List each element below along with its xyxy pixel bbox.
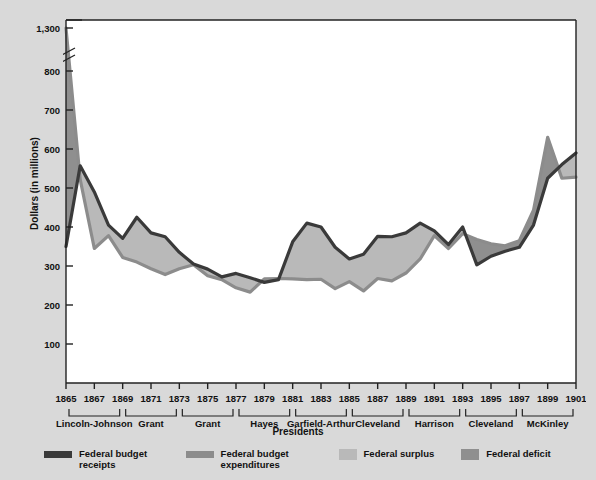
legend-swatch-expenditures xyxy=(186,451,214,458)
x-tick-label: 1869 xyxy=(112,393,133,404)
figure: 1002003004005006007008001,30018651867186… xyxy=(0,0,596,480)
x-tick-label: 1895 xyxy=(480,393,502,404)
y-tick-label: 500 xyxy=(44,183,60,194)
x-tick-label: 1887 xyxy=(367,393,388,404)
y-tick-label: 1,300 xyxy=(36,23,60,34)
budget-chart-svg: 1002003004005006007008001,30018651867186… xyxy=(10,8,586,472)
president-bracket xyxy=(126,409,177,416)
y-tick-label: 300 xyxy=(44,261,60,272)
y-tick-label: 100 xyxy=(44,339,60,350)
x-tick-label: 1877 xyxy=(225,393,246,404)
y-tick-label: 200 xyxy=(44,300,60,311)
x-tick-label: 1881 xyxy=(282,393,304,404)
axis-break-gap xyxy=(59,49,63,67)
president-bracket xyxy=(182,409,233,416)
legend-label-surplus: Federal surplus xyxy=(364,448,435,459)
y-tick-label: 600 xyxy=(44,144,60,155)
legend-item-deficit: Federal deficit xyxy=(461,448,584,460)
x-tick-label: 1897 xyxy=(509,393,530,404)
legend-label-receipts: Federal budget receipts xyxy=(79,448,147,470)
president-bracket xyxy=(522,409,573,416)
chart-legend: Federal budget receipts Federal budget e… xyxy=(44,448,584,470)
legend-swatch-surplus xyxy=(339,449,357,460)
y-tick-label: 700 xyxy=(44,105,60,116)
president-bracket xyxy=(239,409,290,416)
legend-item-expenditures: Federal budget expenditures xyxy=(186,448,339,470)
legend-swatch-deficit xyxy=(461,449,479,460)
y-axis-title: Dollars (in millions) xyxy=(29,114,40,254)
president-bracket xyxy=(296,409,347,416)
president-bracket xyxy=(69,409,120,416)
y-tick-label: 800 xyxy=(44,66,60,77)
x-tick-label: 1873 xyxy=(169,393,190,404)
president-bracket xyxy=(466,409,517,416)
x-tick-label: 1893 xyxy=(452,393,473,404)
plot-background xyxy=(66,20,576,383)
x-tick-label: 1889 xyxy=(395,393,416,404)
y-tick-label: 400 xyxy=(44,222,60,233)
x-tick-label: 1901 xyxy=(565,393,586,404)
x-tick-label: 1885 xyxy=(339,393,361,404)
president-bracket xyxy=(409,409,460,416)
legend-item-surplus: Federal surplus xyxy=(339,448,462,460)
x-tick-label: 1899 xyxy=(537,393,558,404)
legend-item-receipts: Federal budget receipts xyxy=(44,448,186,470)
x-tick-label: 1867 xyxy=(84,393,105,404)
chart-container: 1002003004005006007008001,30018651867186… xyxy=(10,8,586,472)
legend-label-expenditures: Federal budget expenditures xyxy=(221,448,289,470)
x-tick-label: 1865 xyxy=(55,393,77,404)
x-tick-label: 1883 xyxy=(310,393,331,404)
x-tick-label: 1891 xyxy=(424,393,446,404)
x-tick-label: 1879 xyxy=(254,393,275,404)
legend-swatch-receipts xyxy=(44,451,72,458)
x-axis-title: Presidents xyxy=(10,426,586,437)
legend-label-deficit: Federal deficit xyxy=(486,448,550,459)
x-tick-label: 1871 xyxy=(140,393,162,404)
president-bracket xyxy=(352,409,403,416)
x-tick-label: 1875 xyxy=(197,393,219,404)
